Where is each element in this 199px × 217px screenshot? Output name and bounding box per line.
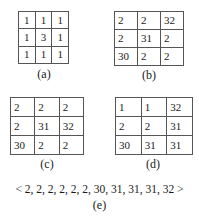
cell: 2 bbox=[138, 48, 161, 66]
cell: 1 bbox=[35, 46, 52, 63]
cell: 32 bbox=[167, 98, 193, 117]
cell: 1 bbox=[19, 46, 36, 63]
matrix-b: 2 2 32 2 31 2 30 2 2 bbox=[114, 11, 184, 66]
cell: 1 bbox=[141, 98, 167, 117]
cell: 2 bbox=[115, 12, 138, 30]
cell: 3 bbox=[35, 29, 52, 46]
panel-label-d: (d) bbox=[137, 158, 169, 170]
cell: 2 bbox=[59, 98, 83, 117]
cell: 30 bbox=[115, 48, 138, 66]
cell: 1 bbox=[52, 12, 69, 29]
matrix-a: 1 1 1 1 3 1 1 1 1 bbox=[18, 11, 69, 64]
cell: 32 bbox=[59, 117, 83, 136]
cell: 2 bbox=[161, 30, 184, 48]
cell: 2 bbox=[115, 30, 138, 48]
cell: 1 bbox=[52, 29, 69, 46]
cell: 31 bbox=[138, 30, 161, 48]
sorted-sequence: < 2, 2, 2, 2, 2, 2, 30, 31, 31, 31, 32 > bbox=[0, 184, 199, 196]
cell: 2 bbox=[59, 136, 83, 155]
cell: 2 bbox=[35, 136, 59, 155]
matrix-c: 2 2 2 2 31 32 30 2 2 bbox=[10, 97, 84, 155]
cell: 1 bbox=[19, 12, 36, 29]
cell: 1 bbox=[35, 12, 52, 29]
cell: 2 bbox=[35, 98, 59, 117]
cell: 31 bbox=[167, 136, 193, 155]
cell: 31 bbox=[167, 117, 193, 136]
cell: 31 bbox=[35, 117, 59, 136]
panel-label-b: (b) bbox=[133, 69, 165, 81]
cell: 32 bbox=[161, 12, 184, 30]
panel-label-e: (e) bbox=[0, 199, 199, 211]
cell: 1 bbox=[116, 98, 142, 117]
panel-label-a: (a) bbox=[28, 68, 60, 80]
cell: 2 bbox=[161, 48, 184, 66]
cell: 30 bbox=[11, 136, 35, 155]
matrix-d: 1 1 32 2 2 31 30 31 31 bbox=[115, 97, 193, 155]
cell: 30 bbox=[116, 136, 142, 155]
cell: 31 bbox=[141, 136, 167, 155]
panel-label-c: (c) bbox=[31, 158, 63, 170]
cell: 2 bbox=[138, 12, 161, 30]
cell: 1 bbox=[52, 46, 69, 63]
cell: 2 bbox=[11, 98, 35, 117]
cell: 2 bbox=[11, 117, 35, 136]
cell: 2 bbox=[116, 117, 142, 136]
cell: 1 bbox=[19, 29, 36, 46]
cell: 2 bbox=[141, 117, 167, 136]
